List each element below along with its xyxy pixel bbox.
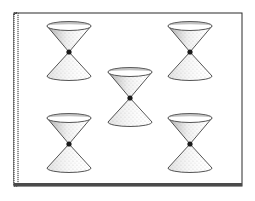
event-point-icon bbox=[187, 49, 192, 54]
sheet-bottom-edge bbox=[14, 183, 242, 186]
event-point-icon bbox=[66, 141, 71, 146]
event-point-icon bbox=[66, 49, 71, 54]
sheet-left-edge bbox=[14, 13, 18, 186]
event-point-icon bbox=[127, 95, 132, 100]
light-cone-diagram bbox=[0, 0, 255, 201]
event-point-icon bbox=[187, 141, 192, 146]
